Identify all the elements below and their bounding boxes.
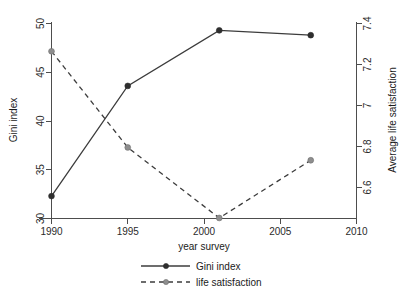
right-tick-label: 7 [362, 102, 373, 108]
chart-legend: Gini index life satisfaction [141, 261, 262, 288]
legend-item-gini-index[interactable]: Gini index [141, 261, 240, 272]
left-tick-label: 40 [35, 115, 46, 127]
legend-item-life-satisfaction[interactable]: life satisfaction [141, 277, 262, 288]
data-point-marker [125, 145, 131, 151]
x-axis-tick-labels: 1990 1995 2000 2005 2010 [40, 226, 368, 237]
gini-index-line [52, 30, 311, 196]
right-tick-label: 7.2 [362, 57, 373, 71]
legend-label-life-satisfaction: life satisfaction [196, 277, 262, 288]
right-tick-label: 6.6 [362, 180, 373, 194]
data-point-marker [125, 83, 131, 89]
life-satisfaction-markers [49, 48, 314, 220]
data-point-marker [49, 193, 55, 199]
x-tick-label: 2000 [193, 226, 216, 237]
y-axis-left-title: Gini index [8, 98, 19, 142]
y-axis-right-title: Average life satisfaction [387, 67, 398, 172]
chart-figure: 50 45 40 35 30 Gini index 7.4 7.2 7 6.8 … [0, 0, 404, 297]
life-satisfaction-line [52, 51, 311, 218]
data-point-marker [49, 48, 55, 54]
x-axis-title: year survey [178, 241, 230, 252]
legend-marker-filled-circle-icon [163, 263, 168, 268]
x-tick-label: 1990 [40, 226, 63, 237]
left-tick-label: 50 [35, 18, 46, 30]
left-axis-tick-labels: 50 45 40 35 30 [35, 18, 46, 225]
right-tick-label: 7.4 [362, 16, 373, 30]
data-point-marker [216, 215, 222, 221]
x-tick-label: 1995 [117, 226, 140, 237]
series-life-satisfaction [49, 48, 314, 220]
data-point-marker [308, 157, 314, 163]
legend-marker-gray-circle-icon [163, 279, 168, 284]
series-gini-index [49, 27, 314, 199]
left-tick-label: 45 [35, 66, 46, 78]
x-axis-ticks [52, 219, 357, 225]
x-tick-label: 2005 [269, 226, 292, 237]
line-chart-canvas: 50 45 40 35 30 Gini index 7.4 7.2 7 6.8 … [0, 0, 404, 297]
left-tick-label: 30 [35, 213, 46, 225]
left-tick-label: 35 [35, 164, 46, 176]
right-axis-tick-labels: 7.4 7.2 7 6.8 6.6 [362, 16, 373, 194]
x-tick-label: 2010 [345, 226, 368, 237]
right-tick-label: 6.8 [362, 139, 373, 153]
data-point-marker [216, 27, 222, 33]
data-point-marker [308, 32, 314, 38]
legend-label-gini-index: Gini index [196, 261, 240, 272]
